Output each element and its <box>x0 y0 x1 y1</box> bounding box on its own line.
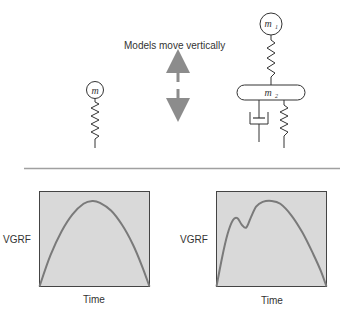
x-axis-label: Time <box>83 294 105 305</box>
y-axis-label: VGRF <box>3 234 31 245</box>
figure: Models move vertically m m 1 m 2 VGRF <box>0 0 345 314</box>
single-mass-spring-model: m <box>87 82 104 149</box>
upper-spring-icon <box>267 35 275 85</box>
mass-m2-label: m <box>264 87 271 98</box>
spring-icon <box>91 99 99 149</box>
y-axis-label: VGRF <box>180 234 208 245</box>
mass-m2-subscript: 2 <box>275 93 278 99</box>
lower-spring-icon <box>280 100 288 148</box>
caption: Models move vertically <box>124 40 225 51</box>
chart-single-mass-vgrf: VGRF Time <box>3 192 150 306</box>
mass-m1-subscript: 1 <box>275 24 278 30</box>
mass-m-label: m <box>91 85 98 96</box>
x-axis-label: Time <box>261 295 283 306</box>
plot-area <box>217 192 327 287</box>
chart-two-mass-vgrf: VGRF Time <box>180 192 327 307</box>
mass-m1-label: m <box>264 18 271 29</box>
plot-area <box>40 192 150 287</box>
two-mass-spring-damper-model: m 1 m 2 <box>237 13 305 148</box>
damper-icon <box>250 100 268 142</box>
